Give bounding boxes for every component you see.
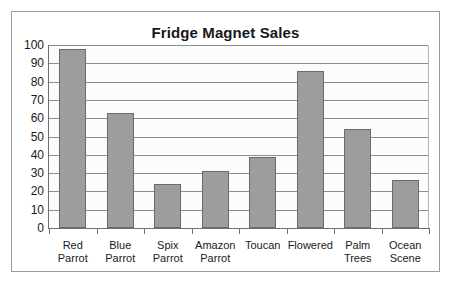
x-axis-tick-mark (429, 229, 430, 234)
x-axis-tick-mark (334, 229, 335, 234)
x-axis-tick-mark (49, 229, 50, 234)
x-axis-tick-label: OceanScene (382, 239, 430, 265)
x-axis-tick-label-line: Scene (382, 252, 430, 265)
x-axis-tick-mark (382, 229, 383, 234)
gridline (49, 63, 428, 64)
x-axis-tick-label-line: Blue (97, 239, 145, 252)
x-axis-tick-label-line: Red Parrot (49, 239, 97, 265)
plot-area (49, 45, 429, 228)
x-axis-tick-mark (239, 229, 240, 234)
x-axis-tick-label-line: Parrot (192, 252, 240, 265)
x-axis-tick-mark (192, 229, 193, 234)
bar (59, 49, 86, 228)
bar (202, 171, 229, 228)
x-axis-tick-label-line: Toucan (239, 239, 287, 252)
y-axis-tick-label: 40 (14, 148, 44, 162)
y-axis-tick-label: 30 (14, 166, 44, 180)
x-axis-tick-label-line: Palm (334, 239, 382, 252)
bar (392, 180, 419, 228)
bar (154, 184, 181, 228)
bar (249, 157, 276, 228)
y-axis-tick-label: 0 (14, 221, 44, 235)
x-axis-tick-label: Flowered (287, 239, 335, 252)
x-axis-tick-mark (144, 229, 145, 234)
y-axis-tick-label: 90 (14, 56, 44, 70)
y-axis-tick-label: 20 (14, 184, 44, 198)
x-axis-tick-label-line: Spix (144, 239, 192, 252)
bar (107, 113, 134, 228)
y-axis-tick-label: 70 (14, 93, 44, 107)
x-axis-tick-mark (97, 229, 98, 234)
y-axis-line (48, 45, 49, 229)
x-axis-tick-label: PalmTrees (334, 239, 382, 265)
y-axis-tick-labels: 0102030405060708090100 (12, 45, 44, 228)
x-axis-tick-label-line: Flowered (287, 239, 335, 252)
bar (344, 129, 371, 228)
x-axis-tick-label: BlueParrot (97, 239, 145, 265)
x-axis-tick-mark (287, 229, 288, 234)
y-axis-tick-label: 50 (14, 130, 44, 144)
chart-frame: Fridge Magnet Sales 01020304050607080901… (11, 11, 440, 272)
x-axis-tick-label: Toucan (239, 239, 287, 252)
gridline (49, 100, 428, 101)
chart-title: Fridge Magnet Sales (12, 24, 439, 41)
x-axis-tick-label-line: Parrot (144, 252, 192, 265)
gridline (49, 45, 428, 46)
y-axis-tick-label: 80 (14, 75, 44, 89)
gridline (49, 82, 428, 83)
y-axis-tick-label: 100 (14, 38, 44, 52)
x-axis-tick-label-line: Trees (334, 252, 382, 265)
x-axis-tick-label: AmazonParrot (192, 239, 240, 265)
x-axis-tick-label-line: Ocean (382, 239, 430, 252)
bar (297, 71, 324, 228)
x-axis-tick-label: SpixParrot (144, 239, 192, 265)
x-axis-tick-label-line: Parrot (97, 252, 145, 265)
y-axis-tick-label: 60 (14, 111, 44, 125)
x-axis-tick-label-line: Amazon (192, 239, 240, 252)
x-axis-tick-label: Red Parrot (49, 239, 97, 265)
y-axis-tick-label: 10 (14, 203, 44, 217)
